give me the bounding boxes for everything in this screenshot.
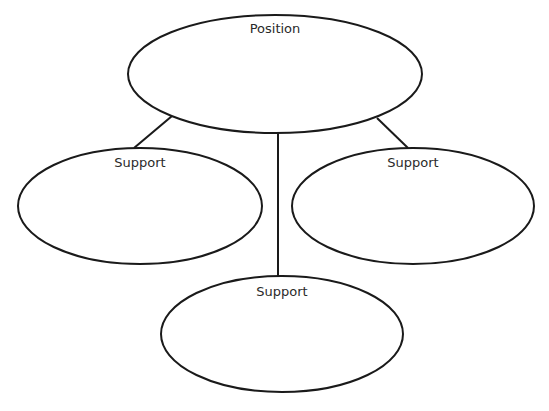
support-right-label: Support xyxy=(387,155,438,171)
edge-support-right xyxy=(377,118,408,148)
support-left-label: Support xyxy=(114,155,165,171)
ellipse-nodes xyxy=(18,15,534,392)
position-label: Position xyxy=(250,21,301,37)
edge-support-left xyxy=(134,116,172,148)
diagram-canvas xyxy=(0,0,549,411)
support-bottom-label: Support xyxy=(256,284,307,300)
